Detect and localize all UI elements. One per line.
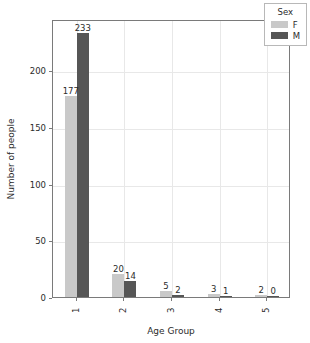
y-axis-label-container: Number of people — [6, 20, 20, 298]
y-tick-mark — [49, 298, 52, 299]
y-tick-label: 0 — [22, 294, 46, 303]
x-tick-mark — [123, 298, 124, 301]
legend-item-m[interactable]: M — [271, 30, 300, 41]
legend-label: M — [293, 31, 300, 41]
plot-area: 1772332014523120 — [52, 20, 290, 298]
bar-value-label: 177 — [59, 87, 83, 96]
bar-value-label: 1 — [214, 287, 238, 296]
bar-value-label: 0 — [261, 287, 285, 296]
x-axis-label: Age Group — [52, 326, 290, 337]
bar-value-label: 233 — [71, 24, 95, 33]
y-tick-label: 150 — [22, 124, 46, 133]
legend-swatch-icon — [271, 32, 288, 39]
bar-value-labels-layer: 1772332014523120 — [53, 21, 289, 297]
x-tick-mark — [171, 298, 172, 301]
bar-value-label: 14 — [118, 272, 142, 281]
legend-entries: FM — [271, 19, 300, 41]
x-tick-mark — [266, 298, 267, 301]
x-tick-label: 5 — [262, 303, 271, 317]
x-tick-mark — [219, 298, 220, 301]
legend-label: F — [293, 20, 298, 30]
y-tick-label: 50 — [22, 237, 46, 246]
x-tick-label: 4 — [214, 303, 223, 317]
legend[interactable]: Sex FM — [264, 3, 307, 46]
x-tick-label: 3 — [167, 303, 176, 317]
y-axis-label: Number of people — [4, 20, 18, 298]
legend-swatch-icon — [271, 21, 288, 28]
x-tick-label: 2 — [119, 303, 128, 317]
bar-value-label: 2 — [166, 286, 190, 295]
y-tick-label: 200 — [22, 67, 46, 76]
y-tick-label: 100 — [22, 181, 46, 190]
legend-item-f[interactable]: F — [271, 19, 300, 30]
legend-title: Sex — [271, 7, 300, 17]
x-tick-label: 1 — [72, 303, 81, 317]
bar-chart-figure: Number of people 050100150200 1772332014… — [0, 0, 310, 343]
x-tick-mark — [76, 298, 77, 301]
